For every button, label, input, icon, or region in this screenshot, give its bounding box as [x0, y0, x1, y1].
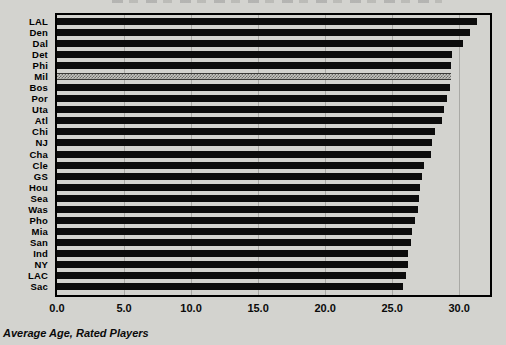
bar-Cle — [57, 162, 424, 169]
team-label-Uta: Uta — [0, 104, 48, 115]
x-tick-label-25.0: 25.0 — [370, 302, 414, 314]
bar-Was — [57, 206, 418, 213]
team-label-Hou: Hou — [0, 182, 48, 193]
cropped-title-remnant — [112, 0, 442, 3]
team-label-GS: GS — [0, 171, 48, 182]
x-tick-label-5.0: 5.0 — [102, 302, 146, 314]
bar-Chi — [57, 128, 435, 135]
team-label-Por: Por — [0, 93, 48, 104]
team-label-Det: Det — [0, 49, 48, 60]
bar-Mia — [57, 228, 412, 235]
x-tick-label-20.0: 20.0 — [303, 302, 347, 314]
team-label-Was: Was — [0, 204, 48, 215]
x-tick-label-0.0: 0.0 — [35, 302, 79, 314]
bar-Bos — [57, 84, 450, 91]
team-label-Sac: Sac — [0, 281, 48, 292]
team-label-Mia: Mia — [0, 226, 48, 237]
chart-page: { "page": { "caption": "Average Age, Rat… — [0, 0, 506, 345]
team-label-Atl: Atl — [0, 115, 48, 126]
team-label-Cle: Cle — [0, 160, 48, 171]
x-tick-label-30.0: 30.0 — [437, 302, 481, 314]
bar-GS — [57, 173, 422, 180]
team-label-Dal: Dal — [0, 38, 48, 49]
bar-Den — [57, 29, 470, 36]
bar-Cha — [57, 151, 431, 158]
bar-Sea — [57, 195, 419, 202]
bar-Atl — [57, 117, 442, 124]
gridline-30 — [459, 15, 460, 295]
bar-Dal — [57, 40, 463, 47]
team-label-Mil: Mil — [0, 71, 48, 82]
bar-Uta — [57, 106, 444, 113]
bar-Ind — [57, 250, 408, 257]
chart-caption: Average Age, Rated Players — [3, 327, 149, 339]
bar-Por — [57, 95, 447, 102]
x-tick-label-10.0: 10.0 — [169, 302, 213, 314]
team-label-NY: NY — [0, 259, 48, 270]
team-label-NJ: NJ — [0, 137, 48, 148]
team-label-Pho: Pho — [0, 215, 48, 226]
chart-plot-area — [55, 13, 492, 297]
team-label-Sea: Sea — [0, 193, 48, 204]
bar-Phi — [57, 62, 451, 69]
bar-NY — [57, 261, 408, 268]
team-label-Phi: Phi — [0, 60, 48, 71]
team-label-Ind: Ind — [0, 248, 48, 259]
bar-San — [57, 239, 411, 246]
bar-Det — [57, 51, 452, 58]
team-label-San: San — [0, 237, 48, 248]
bar-LAC — [57, 272, 406, 279]
team-label-Bos: Bos — [0, 82, 48, 93]
team-label-Cha: Cha — [0, 149, 48, 160]
bar-LAL — [57, 18, 477, 25]
bar-NJ — [57, 139, 432, 146]
bar-Pho — [57, 217, 415, 224]
x-tick-label-15.0: 15.0 — [236, 302, 280, 314]
bar-Mil-highlighted — [57, 73, 451, 80]
bar-Sac — [57, 283, 403, 290]
bar-Hou — [57, 184, 420, 191]
team-label-Den: Den — [0, 27, 48, 38]
team-label-LAL: LAL — [0, 16, 48, 27]
team-label-LAC: LAC — [0, 270, 48, 281]
team-label-Chi: Chi — [0, 126, 48, 137]
